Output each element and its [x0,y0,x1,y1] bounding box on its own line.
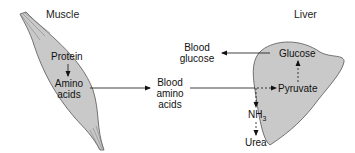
blood-amino-line2: amino [153,88,187,99]
blood-amino-line1: Blood [153,77,187,88]
nh3-subscript: 3 [262,115,266,122]
glucose-alanine-cycle-diagram: Muscle Liver Protein Amino acids Blood a… [0,0,355,153]
protein-label: Protein [51,51,83,62]
urea-label: Urea [245,137,267,148]
blood-amino-line3: acids [153,99,187,110]
amino-acids-line2: acids [53,89,85,100]
blood-amino-acids-label: Blood amino acids [153,77,187,110]
pyruvate-label: Pyruvate [278,83,317,94]
amino-acids-label: Amino acids [53,78,85,100]
glucose-label: Glucose [279,48,316,59]
amino-acids-line1: Amino [53,78,85,89]
blood-glucose-line1: Blood [175,42,219,53]
liver-title: Liver [294,9,317,20]
muscle-title: Muscle [46,9,79,20]
nh3-base: NH [248,109,262,120]
blood-glucose-label: Blood glucose [175,42,219,64]
blood-glucose-line2: glucose [175,53,219,64]
nh3-label: NH3 [248,109,266,121]
